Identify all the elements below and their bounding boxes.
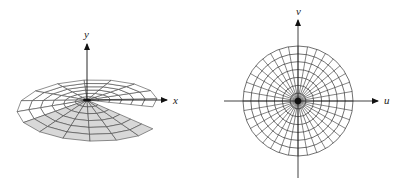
x-axis-label: x: [172, 94, 178, 106]
u-axis-label: u: [384, 94, 390, 106]
y-axis-label: y: [83, 28, 89, 40]
v-axis-label: v: [296, 5, 301, 17]
figure-canvas: y x v u: [0, 0, 404, 184]
